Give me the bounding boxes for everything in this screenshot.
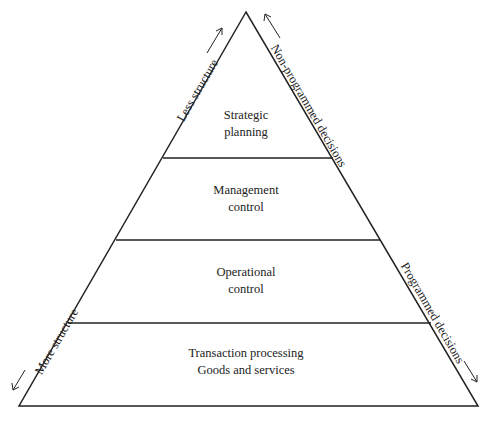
- up-arrow-left: [207, 28, 222, 53]
- up-arrow-right: [265, 14, 280, 38]
- down-arrow-right: [464, 361, 477, 382]
- pyramid-diagram: Strategic planning Management control Op…: [0, 0, 493, 425]
- level-transaction-processing: Transaction processing Goods and service…: [146, 345, 346, 379]
- level-operational-control: Operational control: [146, 264, 346, 298]
- level-management-control: Management control: [146, 182, 346, 216]
